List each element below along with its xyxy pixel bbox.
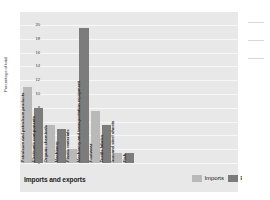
bar-category-label: Electronic components	[32, 116, 36, 162]
bar-category-label: Organic chemicals	[43, 125, 47, 162]
legend-swatch	[228, 175, 238, 182]
plot-area: Petroleum and petroleum productsElectron…	[23, 25, 183, 163]
bar-category-label: Machinery	[54, 141, 58, 162]
legend-label: Imports	[205, 175, 224, 181]
bar-category-label: Textile fabrics	[100, 134, 104, 162]
bar-category-label: Fish	[122, 153, 126, 162]
gridline	[20, 163, 238, 164]
bar-slot[interactable]: Iron and steel sheets	[113, 25, 122, 163]
bar-slot[interactable]: Fish	[125, 25, 134, 163]
bar-category-label: Plastic materials	[66, 129, 70, 162]
legend-swatch	[192, 175, 202, 182]
chart-title: Imports and exports	[24, 176, 86, 183]
bar-category-label: Footwear	[88, 143, 92, 162]
page-edge-strip	[242, 0, 270, 200]
figure: 02468101214161820 Percentage of total Pe…	[0, 0, 270, 200]
bar-group: Petroleum and petroleum productsElectron…	[23, 25, 183, 163]
legend-item[interactable]: Imports	[192, 175, 224, 182]
bar-category-label: Machinery and transportation equipment	[77, 81, 81, 162]
bar-slot[interactable]: Machinery and transportation equipment	[79, 25, 88, 163]
y-axis-title: Percentage of total	[3, 57, 8, 92]
bar-category-label: Iron and steel sheets	[111, 120, 115, 162]
bar-category-label: Petroleum and petroleum products	[21, 92, 25, 162]
